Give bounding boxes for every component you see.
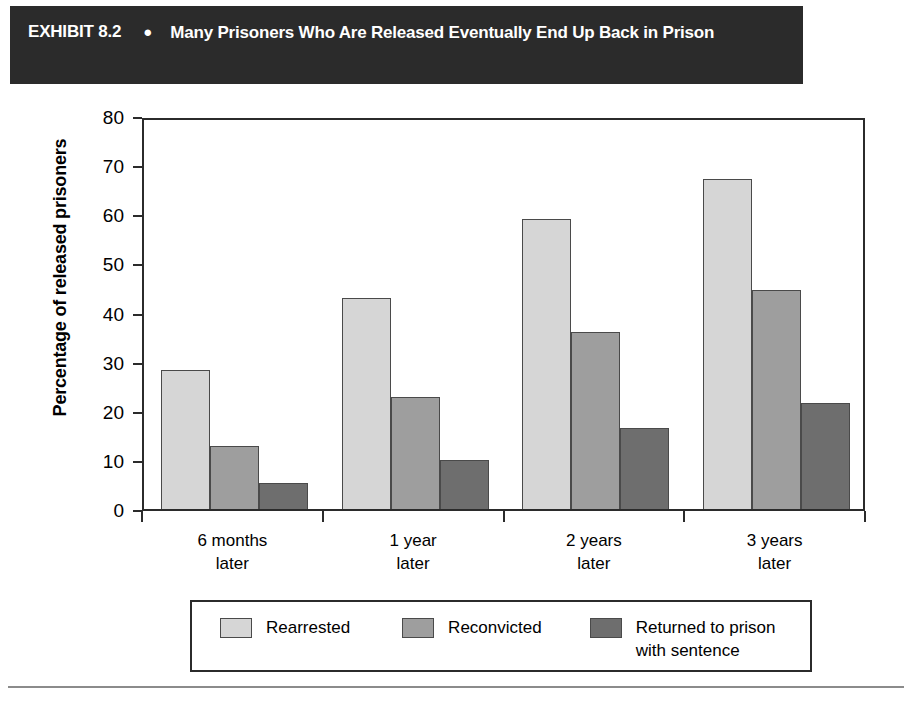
legend-swatch-icon — [402, 618, 434, 638]
y-tick-label: 0 — [82, 500, 124, 522]
bar-reconvicted-1 — [391, 397, 440, 509]
legend-swatch-icon — [220, 618, 252, 638]
bar-returned-to-prison-with-sentence-3 — [801, 403, 850, 509]
legend-swatch-icon — [590, 618, 622, 638]
bar-rearrested-1 — [342, 298, 391, 509]
bar-reconvicted-3 — [752, 290, 801, 509]
legend-entry: Rearrested — [220, 616, 350, 639]
y-tick-mark — [133, 166, 142, 168]
legend-entry: Reconvicted — [402, 616, 542, 639]
y-tick-mark — [133, 264, 142, 266]
bar-returned-to-prison-with-sentence-1 — [440, 460, 489, 509]
exhibit-number: EXHIBIT 8.2 — [28, 20, 121, 44]
x-tick-label: 6 months later — [197, 529, 267, 575]
legend-label: Returned to prison with sentence — [636, 616, 776, 662]
footer-divider — [8, 686, 904, 688]
y-tick-label: 50 — [82, 254, 124, 276]
bar-reconvicted-0 — [210, 446, 259, 509]
x-tick-label: 2 years later — [566, 529, 622, 575]
y-tick-mark — [133, 363, 142, 365]
x-tick-mark — [683, 511, 685, 522]
x-tick-mark — [322, 511, 324, 522]
exhibit-title: Many Prisoners Who Are Released Eventual… — [170, 20, 714, 46]
bar-chart: Percentage of released prisoners 0102030… — [0, 92, 912, 692]
plot-frame — [142, 118, 865, 511]
y-tick-mark — [133, 215, 142, 217]
bar-returned-to-prison-with-sentence-0 — [259, 483, 308, 509]
chart-legend: RearrestedReconvictedReturned to prison … — [190, 600, 812, 672]
y-tick-mark — [133, 461, 142, 463]
legend-label: Rearrested — [266, 616, 350, 639]
exhibit-header: EXHIBIT 8.2 ● Many Prisoners Who Are Rel… — [10, 6, 803, 84]
legend-entry: Returned to prison with sentence — [590, 616, 776, 662]
exhibit-figure: EXHIBIT 8.2 ● Many Prisoners Who Are Rel… — [0, 0, 912, 702]
x-tick-mark — [141, 511, 143, 522]
x-tick-mark — [864, 511, 866, 522]
y-tick-label: 80 — [82, 107, 124, 129]
bar-rearrested-3 — [703, 179, 752, 509]
x-tick-mark — [503, 511, 505, 522]
bars-layer — [144, 120, 863, 509]
legend-label: Reconvicted — [448, 616, 542, 639]
bullet-icon: ● — [143, 20, 152, 44]
x-tick-label: 1 year later — [390, 529, 437, 575]
y-tick-mark — [133, 412, 142, 414]
y-tick-label: 70 — [82, 156, 124, 178]
bar-rearrested-2 — [522, 219, 571, 509]
y-tick-mark — [133, 314, 142, 316]
x-tick-label: 3 years later — [747, 529, 803, 575]
bar-reconvicted-2 — [571, 332, 620, 509]
y-tick-mark — [133, 117, 142, 119]
y-tick-label: 60 — [82, 205, 124, 227]
y-tick-label: 10 — [82, 451, 124, 473]
y-tick-label: 20 — [82, 402, 124, 424]
y-axis-title: Percentage of released prisoners — [50, 78, 71, 478]
bar-rearrested-0 — [161, 370, 210, 509]
y-tick-label: 40 — [82, 304, 124, 326]
bar-returned-to-prison-with-sentence-2 — [620, 428, 669, 509]
y-tick-label: 30 — [82, 353, 124, 375]
